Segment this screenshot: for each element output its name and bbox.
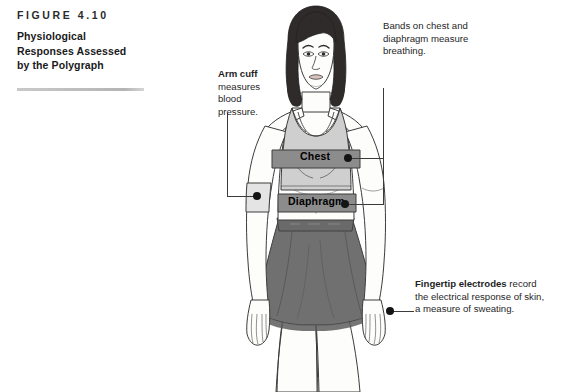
right-pupil [322,52,326,56]
annotation-arm-cuff-heading: Arm cuff [218,68,257,79]
diaphragm-leader-horizontal [348,204,384,205]
chest-dot [344,154,352,162]
figure-page: Figure 4.10 Physiological Responses Asse… [0,0,563,392]
diaphragm-band-label: Diaphragm [288,195,345,207]
chest-band-label: Chest [300,150,330,162]
arm-cuff-dot [253,192,261,200]
annotation-arm-cuff: Arm cuff measures blood pressure. [218,68,280,118]
left-pupil [307,52,311,56]
bands-leader-vertical [383,88,384,205]
chest-leader-horizontal [351,158,384,159]
mouth [309,75,323,80]
fingertip-leader-horizontal [392,311,414,312]
annotation-fingertip: Fingertip electrodes record the electric… [415,278,547,316]
diaphragm-dot [341,200,349,208]
annotation-arm-cuff-body: measures blood pressure. [218,81,260,117]
skirt [257,218,376,325]
neck [302,92,330,112]
annotation-bands: Bands on chest and diaphragm measure bre… [383,20,469,58]
skirt-group [256,218,376,331]
arm-cuff-leader-vertical [227,113,228,196]
fingertip-dot [386,307,394,315]
arm-cuff-leader-horizontal [227,196,254,197]
polygraph-figure-illustration [0,0,563,392]
annotation-fingertip-heading: Fingertip electrodes [415,278,507,289]
annotation-bands-body: Bands on chest and diaphragm measure bre… [383,20,468,56]
human-figure-svg [0,0,563,392]
